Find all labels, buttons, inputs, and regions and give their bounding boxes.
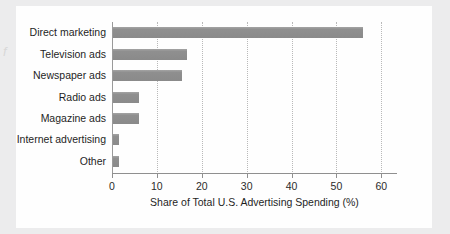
category-label-2: Newspaper ads <box>0 69 106 81</box>
x-tick-label-60: 60 <box>361 180 401 192</box>
bar-6 <box>113 156 119 167</box>
gridline-50 <box>336 22 337 172</box>
plot-area: 0102030405060 <box>112 22 397 172</box>
bar-3 <box>113 92 139 103</box>
x-tick-label-10: 10 <box>137 180 177 192</box>
x-axis-line <box>112 173 397 174</box>
x-tick-label-40: 40 <box>272 180 312 192</box>
x-tick-label-50: 50 <box>316 180 356 192</box>
gridline-20 <box>202 22 203 172</box>
x-tick-20 <box>202 174 203 178</box>
x-tick-30 <box>247 174 248 178</box>
gridline-60 <box>381 22 382 172</box>
category-label-1: Television ads <box>0 48 106 60</box>
bar-2 <box>113 70 182 81</box>
x-tick-0 <box>112 174 113 178</box>
gridline-30 <box>247 22 248 172</box>
x-axis-title: Share of Total U.S. Advertising Spending… <box>112 196 397 208</box>
bar-1 <box>113 49 187 60</box>
bar-4 <box>113 113 139 124</box>
bar-5 <box>113 134 119 145</box>
x-tick-label-20: 20 <box>182 180 222 192</box>
y-axis-line <box>112 22 113 174</box>
category-label-4: Magazine ads <box>0 112 106 124</box>
category-axis-labels: Direct marketingTelevision adsNewspaper … <box>0 22 106 172</box>
gridline-40 <box>292 22 293 172</box>
x-tick-label-30: 30 <box>227 180 267 192</box>
category-label-5: Internet advertising <box>0 133 106 145</box>
chart-figure: f Direct marketingTelevision adsNewspape… <box>0 0 450 234</box>
x-tick-10 <box>157 174 158 178</box>
category-label-6: Other <box>0 155 106 167</box>
x-tick-40 <box>292 174 293 178</box>
x-tick-label-0: 0 <box>92 180 132 192</box>
x-tick-60 <box>381 174 382 178</box>
bar-0 <box>113 27 363 38</box>
x-tick-50 <box>336 174 337 178</box>
category-label-0: Direct marketing <box>0 26 106 38</box>
category-label-3: Radio ads <box>0 91 106 103</box>
gridline-10 <box>157 22 158 172</box>
